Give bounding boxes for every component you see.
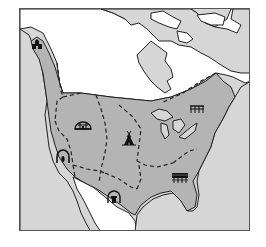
map-frame (19, 8, 250, 231)
north-america-map (19, 8, 250, 231)
